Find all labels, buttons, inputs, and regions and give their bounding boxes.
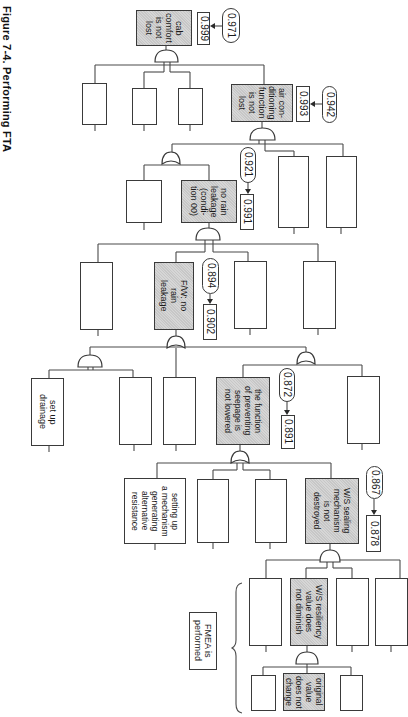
value-box-no-rain-leakage: 0.991	[240, 194, 254, 230]
value-box-cab-comfort: 0.999	[197, 12, 210, 45]
blank-event-box	[340, 675, 363, 711]
event-air-conditioning: air con- ditioning function is not lost	[231, 84, 293, 122]
event-ws-sealing: W/S sealing mechanism is not destroyed	[305, 478, 359, 544]
blank-event-box	[132, 88, 157, 125]
event-seepage-function: the function of preventing seepage is no…	[216, 377, 270, 445]
blank-event-box	[178, 88, 203, 125]
event-alternative-resistance: setting up a mechanism generating altern…	[124, 478, 186, 544]
fmea-annotation: FMEA is performed	[189, 612, 217, 670]
event-fw-no-rain-leakage: F/W: no rain leakage	[154, 262, 194, 330]
target-pill-cab-comfort: 0.971	[222, 8, 240, 43]
blank-event-box	[234, 261, 267, 329]
target-pill-air-conditioning: 0.942	[322, 86, 337, 123]
blank-event-box	[82, 83, 107, 125]
target-pill-no-rain-leakage: 0.921	[240, 147, 256, 183]
blank-event-box	[336, 578, 369, 646]
blank-event-box	[278, 156, 309, 228]
value-box-seepage-function: 0.891	[281, 415, 295, 449]
target-pill-seepage-function: 0.872	[279, 368, 295, 402]
blank-event-box	[326, 156, 357, 228]
value-box-ws-sealing: 0.878	[366, 515, 381, 552]
event-set-up-drainage: set up drainage	[31, 378, 64, 446]
value-box-air-conditioning: 0.993	[296, 86, 310, 122]
event-ws-resiliency: W/S resiliency value does not diminish	[290, 578, 328, 646]
event-cab-comfort: cab comfort is not lost	[136, 10, 192, 46]
blank-event-box	[251, 675, 276, 711]
blank-event-box	[255, 479, 287, 543]
blank-event-box	[347, 376, 380, 444]
blank-event-box	[197, 479, 229, 543]
target-pill-fw-no-rain-leakage: 0.894	[202, 258, 219, 294]
blank-event-box	[375, 578, 408, 646]
event-original-value: original value does not change	[283, 673, 325, 711]
blank-event-box	[303, 261, 336, 329]
blank-event-box	[119, 377, 152, 445]
value-box-fw-no-rain-leakage: 0.902	[203, 304, 217, 340]
event-no-rain-leakage: no rain leakage (condi- tion 00)	[181, 180, 237, 223]
blank-event-box	[80, 262, 113, 330]
blank-event-box	[249, 578, 282, 646]
blank-event-box	[163, 377, 196, 445]
target-pill-ws-sealing: 0.867	[366, 466, 383, 499]
blank-event-box	[126, 180, 162, 223]
